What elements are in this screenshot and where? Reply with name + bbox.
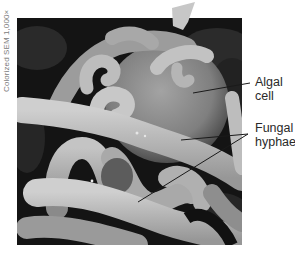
label-fungal-hyphae-line1: Fungal [255, 121, 295, 135]
magnification-credit: Colorized SEM 1,000× [2, 12, 12, 92]
annotation-overlay [0, 0, 295, 254]
label-fungal-hyphae-line2: hyphae [255, 135, 295, 149]
pointer-arrow-icon [172, 2, 195, 30]
label-algal-cell-line1: Algal [255, 75, 283, 89]
sem-figure: Colorized SEM 1,000× Algal cell Fungal h… [0, 0, 295, 254]
label-algal-cell-line2: cell [255, 89, 283, 103]
fungal-hyphae-leader-line-2 [138, 134, 248, 202]
fungal-hyphae-leader-line-1 [181, 134, 248, 140]
label-algal-cell: Algal cell [255, 75, 283, 103]
label-fungal-hyphae: Fungal hyphae [255, 121, 295, 149]
algal-cell-leader-line [193, 83, 250, 93]
